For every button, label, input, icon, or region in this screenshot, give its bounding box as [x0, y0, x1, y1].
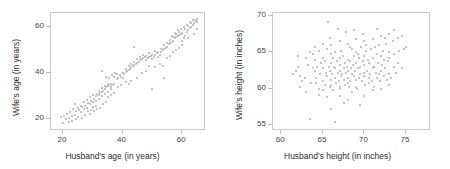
data-point: [312, 53, 314, 55]
data-point: [322, 89, 324, 91]
data-point: [186, 24, 188, 26]
data-point: [175, 49, 177, 51]
data-point: [322, 67, 324, 69]
data-point: [318, 88, 320, 90]
data-point: [368, 62, 370, 64]
data-point: [326, 75, 328, 77]
data-point: [89, 103, 91, 105]
data-point: [125, 81, 127, 83]
data-point: [393, 53, 395, 55]
data-point: [190, 26, 192, 28]
data-point: [322, 43, 324, 45]
data-point: [372, 89, 374, 91]
data-point: [322, 80, 324, 82]
data-point: [341, 73, 343, 75]
data-point: [307, 64, 309, 66]
data-point: [81, 117, 83, 119]
data-point: [178, 47, 180, 49]
data-point: [337, 28, 339, 30]
data-point: [330, 84, 332, 86]
data-point: [398, 50, 400, 52]
data-point: [172, 40, 174, 42]
data-point: [95, 95, 97, 97]
data-point: [338, 80, 340, 82]
data-point: [71, 120, 73, 122]
data-point: [332, 57, 334, 59]
data-point: [403, 48, 405, 50]
data-point: [98, 94, 100, 96]
data-point: [363, 40, 365, 42]
data-point: [362, 60, 364, 62]
data-point: [368, 77, 370, 79]
data-point: [65, 118, 67, 120]
data-point: [366, 70, 368, 72]
data-point: [110, 88, 112, 90]
data-point: [180, 28, 182, 30]
data-point: [315, 82, 317, 84]
data-point: [388, 33, 390, 35]
data-point: [305, 57, 307, 59]
data-point: [187, 37, 189, 39]
y-tick-mark: [46, 118, 50, 119]
data-point: [133, 46, 135, 48]
data-point: [141, 72, 143, 74]
data-point: [349, 46, 351, 48]
data-point: [386, 79, 388, 81]
data-point: [334, 51, 336, 53]
data-point: [339, 86, 341, 88]
data-points-height: [273, 13, 429, 129]
data-point: [381, 64, 383, 66]
x-axis-title-height: Husband's height (in inches): [284, 152, 391, 161]
data-point: [75, 110, 77, 112]
data-point: [377, 62, 379, 64]
y-axis-title-age: Wife's age (in years): [12, 39, 21, 116]
data-point: [343, 102, 345, 104]
data-point: [301, 80, 303, 82]
data-point: [181, 40, 183, 42]
data-point: [133, 65, 135, 67]
data-point: [376, 53, 378, 55]
data-point: [347, 82, 349, 84]
data-point: [401, 35, 403, 37]
data-point: [330, 44, 332, 46]
data-point: [334, 121, 336, 123]
data-point: [95, 100, 97, 102]
data-point: [356, 88, 358, 90]
data-point: [69, 111, 71, 113]
data-point: [382, 50, 384, 52]
scatterplot-panel-height: 6065707555606570 Husband's height (in in…: [225, 0, 450, 169]
data-point: [339, 64, 341, 66]
data-point: [295, 70, 297, 72]
data-point: [369, 73, 371, 75]
y-tick-label: 65: [248, 47, 266, 55]
data-point: [89, 113, 91, 115]
data-point: [339, 70, 341, 72]
data-point: [351, 48, 353, 50]
data-point: [310, 82, 312, 84]
data-point: [314, 46, 316, 48]
data-point: [363, 75, 365, 77]
data-point: [353, 75, 355, 77]
data-point: [388, 73, 390, 75]
data-point: [365, 50, 367, 52]
two-panel-scatterplot-figure: 204060204060 Husband's age (in years) Wi…: [0, 0, 450, 169]
data-point: [154, 66, 156, 68]
x-tick-label: 40: [117, 136, 126, 144]
data-point: [388, 84, 390, 86]
data-point: [379, 80, 381, 82]
data-point: [364, 84, 366, 86]
plot-frame-age: [50, 12, 205, 130]
data-point: [96, 108, 98, 110]
data-point: [324, 60, 326, 62]
data-point: [196, 18, 198, 20]
data-point: [159, 54, 161, 56]
data-point: [401, 67, 403, 69]
data-point: [363, 72, 365, 74]
data-point: [330, 62, 332, 64]
data-point: [107, 96, 109, 98]
data-point: [107, 91, 109, 93]
data-point: [355, 79, 357, 81]
data-point: [89, 96, 91, 98]
data-point: [113, 76, 115, 78]
data-point: [378, 44, 380, 46]
